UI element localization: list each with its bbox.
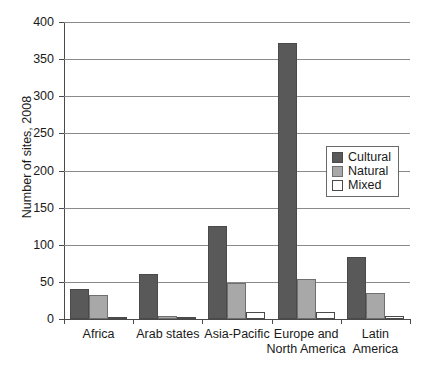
x-tick-mark [64, 319, 65, 324]
legend-item-mixed: Mixed [332, 179, 391, 191]
legend-label: Cultural [348, 151, 391, 163]
x-tick-label-line: Asia-Pacific [204, 327, 269, 342]
x-tick-mark [272, 319, 273, 324]
bar-cultural [278, 43, 297, 319]
bar-group [202, 22, 271, 319]
x-tick-mark [133, 319, 134, 324]
y-tick-label: 200 [33, 164, 54, 178]
x-tick-label: Europe andNorth America [267, 327, 346, 357]
x-axis-line [64, 319, 411, 320]
legend-swatch-cultural [332, 152, 343, 163]
bar-mixed [316, 312, 335, 319]
y-tick-label: 150 [33, 201, 54, 215]
bar-group [133, 22, 202, 319]
legend-swatch-mixed [332, 180, 343, 191]
x-tick-label-line: America [352, 342, 398, 357]
bar-natural [366, 293, 385, 319]
x-tick-label-line: Latin [352, 327, 398, 342]
legend-label: Mixed [348, 179, 381, 191]
x-tick-label: LatinAmerica [352, 327, 398, 357]
x-axis-tick-labels: AfricaArab statesAsia-PacificEurope andN… [64, 327, 411, 373]
legend-item-natural: Natural [332, 165, 391, 177]
bar-group [64, 22, 133, 319]
bar-mixed [246, 312, 265, 319]
bar-cultural [208, 226, 227, 319]
bar-natural [297, 279, 316, 319]
bar-natural [158, 316, 177, 319]
y-tick-label: 250 [33, 126, 54, 140]
legend-label: Natural [348, 165, 388, 177]
x-tick-mark [202, 319, 203, 324]
bar-mixed [177, 317, 196, 319]
x-tick-label-line: Arab states [136, 327, 199, 342]
bar-natural [89, 295, 108, 320]
bar-cultural [347, 257, 366, 319]
x-tick-mark [341, 319, 342, 324]
x-tick-label-line: Africa [83, 327, 115, 342]
x-tick-label-line: Europe and [267, 327, 346, 342]
legend-item-cultural: Cultural [332, 151, 391, 163]
y-tick-label: 350 [33, 52, 54, 66]
x-tick-label: Arab states [136, 327, 199, 342]
x-tick-label: Africa [83, 327, 115, 342]
y-tick-label: 50 [40, 275, 54, 289]
x-tick-label-line: North America [267, 342, 346, 357]
bar-cultural [70, 289, 89, 319]
y-tick-label: 0 [47, 312, 54, 326]
bar-chart: Number of sites, 2008 400350300250200150… [0, 0, 433, 379]
x-tick-mark [410, 319, 411, 324]
bar-cultural [139, 274, 158, 319]
legend-swatch-natural [332, 166, 343, 177]
y-tick-label: 400 [33, 15, 54, 29]
x-tick-label: Asia-Pacific [204, 327, 269, 342]
chart-legend: CulturalNaturalMixed [326, 146, 399, 197]
bar-mixed [385, 316, 404, 319]
y-tick-label: 100 [33, 238, 54, 252]
y-axis-tick-labels: 400350300250200150100500 [0, 0, 60, 319]
bar-natural [227, 283, 246, 319]
y-tick-label: 300 [33, 89, 54, 103]
bar-mixed [108, 317, 127, 319]
